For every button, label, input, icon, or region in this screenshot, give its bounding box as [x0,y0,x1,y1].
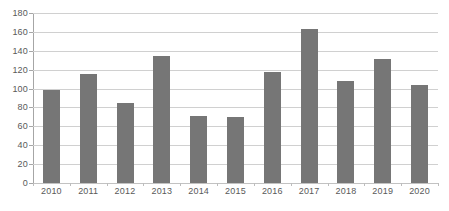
x-axis-tick-label: 2018 [336,186,357,196]
x-axis-tick-mark [438,183,439,186]
bar [190,116,207,183]
y-axis-tick-label: 140 [12,46,28,56]
bar [227,117,244,183]
x-axis-tick-mark [143,183,144,186]
bar [337,81,354,183]
y-axis-tick-label: 100 [12,84,28,94]
x-axis-tick-label: 2011 [78,186,98,196]
x-axis-tick-mark [107,183,108,186]
x-axis-tick-mark [291,183,292,186]
y-axis-tick-label: 0 [23,178,28,188]
y-axis-tick-mark [29,70,33,71]
bar-chart: 020406080100120140160180 201020112012201… [0,0,449,211]
gridline [33,51,438,52]
bar [80,74,97,183]
y-axis-tick-mark [29,32,33,33]
bar [117,103,134,183]
bar [411,85,428,183]
x-axis-tick-mark [401,183,402,186]
y-axis-tick-mark [29,13,33,14]
y-axis-tick-mark [29,51,33,52]
x-axis-tick-mark [328,183,329,186]
bar [301,29,318,183]
x-axis-tick-label: 2017 [299,186,320,196]
y-axis-tick-label: 40 [18,140,28,150]
bar [374,59,391,183]
y-axis-tick-mark [29,89,33,90]
y-axis-tick-label: 120 [12,65,28,75]
x-axis-tick-mark [33,183,34,186]
x-axis-tick-label: 2020 [409,186,430,196]
bar [43,90,60,184]
x-axis-tick-mark [254,183,255,186]
y-axis-tick-label: 60 [18,121,28,131]
gridline [33,13,438,14]
y-axis-tick-mark [29,164,33,165]
x-axis-tick-label: 2016 [262,186,283,196]
x-axis-tick-label: 2012 [115,186,136,196]
gridline [33,183,438,184]
x-axis-tick-label: 2015 [225,186,246,196]
y-axis-tick-label: 160 [12,27,28,37]
x-axis-tick-labels: 2010201120122013201420152016201720182019… [33,186,438,208]
y-axis-tick-mark [29,107,33,108]
gridline [33,32,438,33]
bar [264,72,281,183]
bar [153,56,170,183]
x-axis-tick-label: 2010 [41,186,62,196]
x-axis-tick-label: 2014 [188,186,209,196]
x-axis-tick-mark [217,183,218,186]
x-axis-tick-mark [364,183,365,186]
x-axis-tick-label: 2013 [151,186,172,196]
plot-area [33,13,438,183]
x-axis-tick-label: 2019 [372,186,393,196]
y-axis-tick-label: 180 [12,8,28,18]
y-axis-tick-mark [29,126,33,127]
y-axis-tick-mark [29,145,33,146]
x-axis-tick-mark [70,183,71,186]
x-axis-tick-mark [180,183,181,186]
y-axis-tick-label: 80 [18,102,28,112]
y-axis-tick-label: 20 [18,159,28,169]
